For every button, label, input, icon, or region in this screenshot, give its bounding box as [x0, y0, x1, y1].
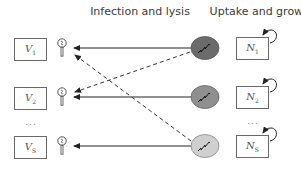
solid-edges	[74, 48, 191, 146]
virus-index: S	[32, 147, 36, 154]
host-symbol: N	[246, 42, 255, 53]
phage-icon	[58, 137, 66, 154]
phage-icon	[58, 88, 66, 105]
host-index: 1	[255, 48, 259, 55]
edge-hostS-virus1	[75, 55, 191, 141]
host-ellipsis: ...	[247, 116, 259, 126]
host-symbol: N	[246, 91, 255, 102]
edge-host1-virus2	[75, 52, 190, 92]
host-index: 2	[255, 97, 259, 104]
host-cell-icon	[191, 86, 219, 109]
virus-index: 1	[32, 49, 36, 56]
host-symbol: N	[246, 140, 255, 151]
phage-icon	[58, 39, 66, 56]
virus-box-1: V1	[14, 38, 47, 61]
virus-symbol: V	[25, 141, 32, 152]
host-box-1: N1	[236, 37, 269, 60]
host-cell-icon	[191, 135, 219, 158]
host-index: S	[255, 146, 259, 153]
virus-index: 2	[32, 98, 36, 105]
host-box-2: N2	[236, 86, 269, 109]
host-cell-icon	[191, 37, 219, 60]
virus-ellipsis: ...	[25, 117, 37, 127]
infection-uptake-diagram: Infection and lysis Uptake and growth	[0, 0, 301, 171]
virus-box-2: V2	[14, 87, 47, 110]
virus-box-S: VS	[14, 136, 47, 159]
host-box-S: NS	[236, 135, 269, 158]
